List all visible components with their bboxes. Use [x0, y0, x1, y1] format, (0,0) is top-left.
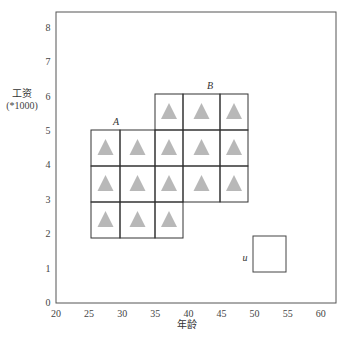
- triangle-marker-icon: [226, 139, 242, 155]
- region-b-label: B: [207, 80, 213, 91]
- y-tick-label: 4: [46, 159, 51, 170]
- y-axis-unit: (*1000): [6, 100, 38, 112]
- x-tick-label: 45: [217, 308, 227, 319]
- triangle-marker-icon: [98, 139, 114, 155]
- plot-frame: [56, 12, 336, 303]
- grid-diagram: 012345678 202530354045505560 工资 (*1000) …: [0, 0, 346, 341]
- triangle-marker-icon: [161, 103, 177, 119]
- triangle-marker-icon: [98, 175, 114, 191]
- region-u-label: u: [243, 252, 248, 263]
- y-tick-label: 8: [46, 22, 51, 33]
- y-tick-label: 2: [46, 228, 51, 239]
- x-axis-label: 年龄: [177, 318, 197, 330]
- triangle-marker-icon: [194, 139, 210, 155]
- y-axis-label: 工资: [12, 88, 32, 99]
- x-tick-label: 55: [283, 308, 293, 319]
- y-tick-label: 0: [46, 297, 51, 308]
- triangle-marker-icon: [161, 211, 177, 227]
- x-tick-label: 50: [250, 308, 260, 319]
- x-tick-label: 25: [84, 308, 94, 319]
- triangle-marker-icon: [194, 175, 210, 191]
- x-tick-label: 20: [51, 308, 61, 319]
- triangle-marker-icon: [226, 175, 242, 191]
- triangle-marker-icon: [226, 103, 242, 119]
- triangle-marker-icon: [130, 139, 146, 155]
- triangle-marker-icon: [130, 175, 146, 191]
- y-axis-ticks: 012345678: [46, 22, 51, 308]
- y-tick-label: 1: [46, 263, 51, 274]
- y-tick-label: 6: [46, 91, 51, 102]
- triangle-marker-icon: [130, 211, 146, 227]
- x-tick-label: 60: [316, 308, 326, 319]
- x-tick-label: 40: [183, 308, 193, 319]
- y-tick-label: 5: [46, 125, 51, 136]
- triangle-marker-icon: [161, 139, 177, 155]
- y-tick-label: 3: [46, 194, 51, 205]
- x-tick-label: 30: [117, 308, 127, 319]
- y-tick-label: 7: [46, 56, 51, 67]
- region-u-box: [253, 236, 286, 272]
- region-a-label: A: [112, 116, 120, 127]
- triangle-marker-icon: [161, 175, 177, 191]
- x-axis-ticks: 202530354045505560: [51, 308, 326, 319]
- x-tick-label: 35: [150, 308, 160, 319]
- triangle-marker-icon: [98, 211, 114, 227]
- triangle-marker-icon: [194, 103, 210, 119]
